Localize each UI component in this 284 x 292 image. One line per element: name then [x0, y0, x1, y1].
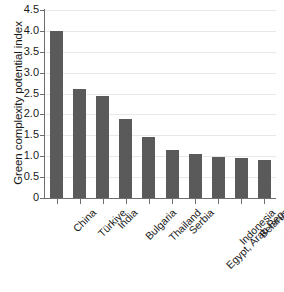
bar [50, 31, 63, 198]
y-axis-line [44, 9, 45, 199]
x-tick-mark [149, 199, 150, 204]
bar [142, 137, 155, 198]
gridline [45, 73, 276, 74]
x-tick-mark [264, 199, 265, 204]
x-tick-mark [195, 199, 196, 204]
bar-chart: Green complexity potential index 4.54.03… [0, 0, 284, 292]
bar [96, 96, 109, 198]
bar [73, 89, 86, 198]
x-tick-mark [172, 199, 173, 204]
gridline [45, 10, 276, 11]
bar [119, 119, 132, 198]
x-tick-mark [57, 199, 58, 204]
x-tick-mark [218, 199, 219, 204]
x-tick-mark [241, 199, 242, 204]
gridline [45, 52, 276, 53]
bar [189, 154, 202, 198]
bar [212, 157, 225, 198]
bar [166, 150, 179, 198]
plot-area [45, 10, 276, 198]
x-tick-mark [126, 199, 127, 204]
x-tick-label: China [71, 207, 98, 234]
gridline [45, 31, 276, 32]
bar [258, 160, 271, 198]
bar [235, 158, 248, 198]
x-tick-mark [80, 199, 81, 204]
x-tick-mark [103, 199, 104, 204]
